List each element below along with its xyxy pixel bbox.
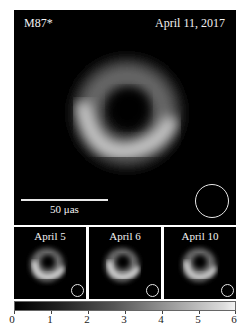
sub-panel-label: April 5	[14, 230, 86, 242]
beam-circle-icon	[146, 284, 159, 297]
sub-panel-label: April 10	[164, 230, 236, 242]
colorbar-tick-label: 0	[6, 313, 18, 325]
beam-circle-icon	[195, 184, 229, 218]
scale-bar	[21, 199, 108, 201]
colorbar-tick-label: 2	[81, 313, 93, 325]
colorbar-tick-label: 3	[118, 313, 130, 325]
colorbar-tick-label: 1	[44, 313, 56, 325]
observation-date: April 11, 2017	[155, 16, 225, 31]
sub-panel-april-5: April 5	[14, 227, 86, 299]
beam-circle-icon	[221, 284, 234, 297]
colorbar-tick-label: 4	[155, 313, 167, 325]
beam-circle-icon	[71, 284, 84, 297]
colorbar-tick-label: 5	[192, 313, 204, 325]
source-title: M87*	[24, 16, 53, 31]
sub-panel-label: April 6	[89, 230, 161, 242]
sub-panel-april-10: April 10	[164, 227, 236, 299]
scale-bar-label: 50 μas	[21, 203, 108, 215]
colorbar	[14, 301, 236, 311]
colorbar-tick-label: 6	[228, 313, 240, 325]
main-image-panel: M87* April 11, 2017 50 μas	[14, 10, 236, 225]
sub-panel-april-6: April 6	[89, 227, 161, 299]
